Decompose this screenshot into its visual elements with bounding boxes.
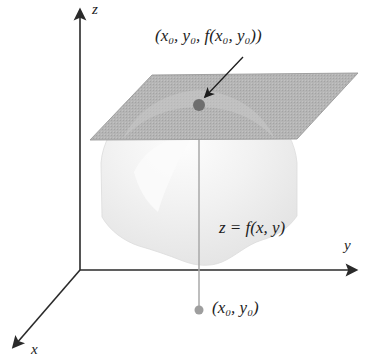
base-point-marker (195, 306, 204, 315)
tangent-point-label: (x₀, y₀, f(x₀, y₀)) (155, 27, 262, 44)
z-axis-label: z (92, 2, 98, 17)
x-axis (16, 270, 80, 344)
diagram-canvas (0, 0, 371, 356)
y-axis-label: y (344, 238, 351, 253)
surface-equation-label: z = f(x, y) (219, 219, 285, 236)
x-axis-label: x (31, 342, 38, 356)
base-point-label: (x₀, y₀) (212, 299, 259, 316)
tangent-plane-figure: (x₀, y₀, f(x₀, y₀)) z = f(x, y) (x₀, y₀)… (0, 0, 371, 356)
tangent-point-marker (193, 99, 205, 111)
tangent-plane (90, 73, 358, 140)
